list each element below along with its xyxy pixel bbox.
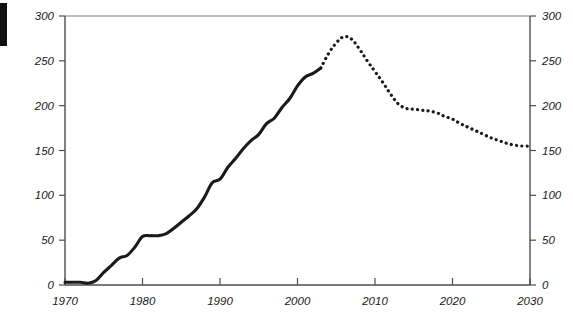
y-tick-label-left: 50 xyxy=(41,234,54,246)
x-tick-label: 2000 xyxy=(284,295,311,307)
y-tick-label-right: 200 xyxy=(541,100,562,112)
y-tick-label-right: 100 xyxy=(542,189,562,201)
left-edge-black-bar xyxy=(0,3,7,46)
x-tick-label: 2030 xyxy=(516,295,543,307)
x-tick-label: 1970 xyxy=(52,295,78,307)
y-tick-label-right: 150 xyxy=(542,145,562,157)
chart-figure: 050100150200250300 050100150200250300 19… xyxy=(0,0,573,320)
x-tick-label: 1980 xyxy=(130,295,156,307)
y-tick-label-left: 250 xyxy=(34,55,55,67)
y-tick-label-right: 300 xyxy=(542,10,562,22)
x-tick-label: 2010 xyxy=(361,295,388,307)
y-axis-tick-labels-left: 050100150200250300 xyxy=(34,10,55,291)
y-tick-label-right: 250 xyxy=(541,55,562,67)
y-tick-label-left: 150 xyxy=(35,145,55,157)
y-tick-label-left: 200 xyxy=(34,100,55,112)
y-tick-label-left: 0 xyxy=(48,279,55,291)
x-axis-tick-labels: 1970198019902000201020202030 xyxy=(52,295,543,307)
x-tick-label: 1990 xyxy=(207,295,233,307)
y-tick-label-left: 300 xyxy=(35,10,55,22)
series-line-historical xyxy=(65,68,321,283)
line-chart-canvas: 050100150200250300 050100150200250300 19… xyxy=(0,0,573,320)
y-tick-label-right: 50 xyxy=(542,234,555,246)
x-tick-label: 2020 xyxy=(439,295,466,307)
series-line-projection xyxy=(321,36,530,146)
y-axis-ticks-right xyxy=(530,16,536,285)
y-axis-ticks-left xyxy=(59,16,65,285)
y-axis-tick-labels-right: 050100150200250300 xyxy=(541,10,562,291)
y-tick-label-left: 100 xyxy=(35,189,55,201)
y-tick-label-right: 0 xyxy=(542,279,549,291)
x-axis-ticks xyxy=(65,278,530,285)
